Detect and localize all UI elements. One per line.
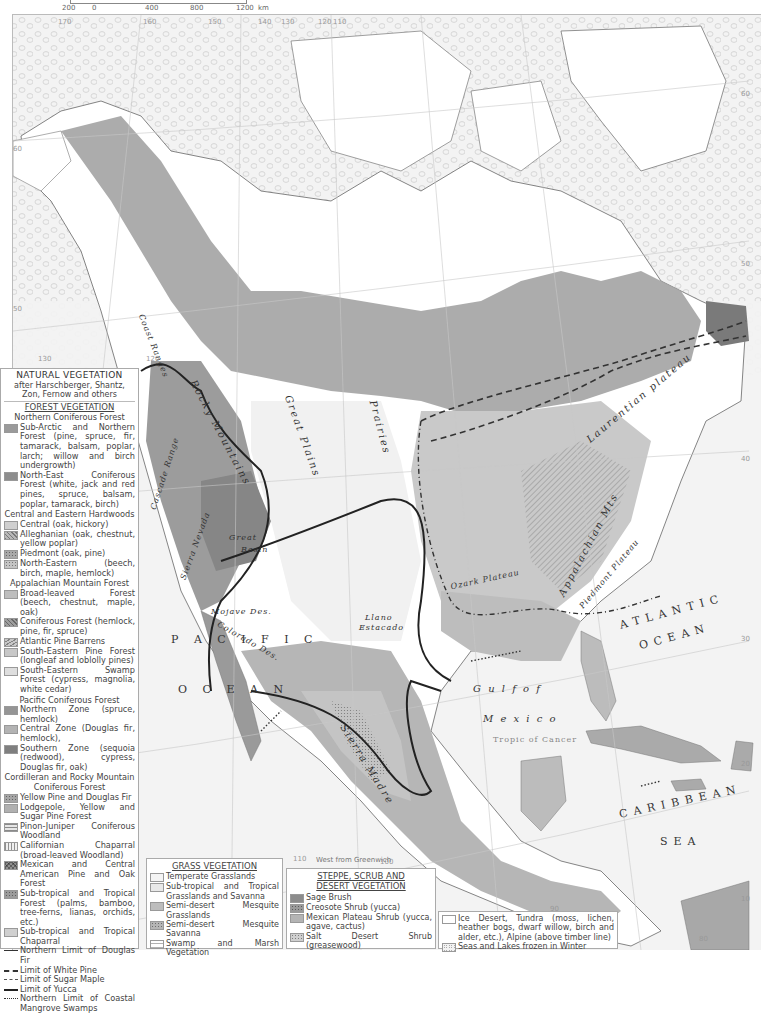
legend-item-label: Swamp and Marsh Vegetation <box>166 939 279 958</box>
legend-item: Ice Desert, Tundra (moss, lichen, heathe… <box>442 914 614 942</box>
legend-swatch <box>4 667 18 676</box>
label-estacado: Estacado <box>359 623 404 632</box>
scale-tick: 200 <box>62 4 75 12</box>
legend-line-symbol <box>4 946 18 955</box>
label-llano: Llano <box>365 613 393 622</box>
legend-swatch <box>4 648 18 657</box>
legend-item-label: Lodgepole, Yellow and Sugar Pine Forest <box>20 803 135 822</box>
legend-line-label: Northern Limit of Coastal Mangrove Swamp… <box>20 994 135 1013</box>
legend-item-label: Coniferous Forest (hemlock, pine, fir, s… <box>20 617 135 636</box>
legend-swatch <box>290 894 304 903</box>
steppe-items: Sage BrushCreosote Shrub (yucca)Mexican … <box>290 893 432 951</box>
legend-swatch <box>150 873 164 882</box>
lon-label: 110 <box>333 18 346 26</box>
legend-natural-vegetation: NATURAL VEGETATION after Harschberger, S… <box>0 368 139 949</box>
legend-swatch <box>4 725 18 734</box>
legend-item-label: Sage Brush <box>306 893 432 902</box>
lon-label: 120 <box>146 355 159 363</box>
label-mojave-desert: Mojave Des. <box>211 607 272 616</box>
steppe-heading-2: DESERT VEGETATION <box>290 881 432 891</box>
legend-item: Salt Desert Shrub (greasewood) <box>290 932 432 951</box>
grass-items: Temperate GrasslandsSub-tropical and Tro… <box>150 872 279 957</box>
legend-grass-vegetation: GRASS VEGETATION Temperate GrasslandsSub… <box>146 858 283 949</box>
lon-label: 80 <box>699 935 708 943</box>
forest-groups: Northern Coniferous ForestSub-Arctic and… <box>4 413 135 946</box>
legend-item-label: Californian Chaparral (broad-leaved Wood… <box>20 841 135 860</box>
legend-item-label: Northern Zone (spruce, hemlock) <box>20 705 135 724</box>
scale-tick: 0 <box>92 4 96 12</box>
legend-item: Seas and Lakes frozen in Winter <box>442 942 614 952</box>
legend-item: Sub-tropical and Tropical Chaparral <box>4 927 135 946</box>
legend-swatch <box>4 590 18 599</box>
legend-swatch <box>4 638 18 647</box>
legend-item: Broad-leaved Forest (beech, chestnut, ma… <box>4 589 135 618</box>
legend-group-title: Cordilleran and Rocky Mountain Coniferou… <box>4 773 135 792</box>
legend-item: South-Eastern Swamp Forest (cypress, mag… <box>4 666 135 695</box>
legend-item: Sage Brush <box>290 893 432 903</box>
scale-tick: 800 <box>190 4 203 12</box>
legend-item-label: Central Zone (Douglas fir, hemlock), <box>20 724 135 743</box>
legend-swatch <box>4 521 18 530</box>
legend-item-label: Alleghanian (oak, chestnut, yellow popla… <box>20 530 135 549</box>
lon-label: 150 <box>208 18 221 26</box>
lat-label: 20 <box>741 760 750 768</box>
west-from-greenwich-label: West from Greenwich <box>316 856 391 864</box>
legend-line-item: Northern Limit of Coastal Mangrove Swamp… <box>4 994 135 1013</box>
ice-items: Ice Desert, Tundra (moss, lichen, heathe… <box>442 914 614 952</box>
legend-item-label: Sub-tropical and Tropical Forest (palms,… <box>20 889 135 927</box>
gulf-label-1: G u l f o f <box>473 683 542 694</box>
legend-steppe-vegetation: STEPPE, SCRUB AND DESERT VEGETATION Sage… <box>286 868 436 949</box>
ocean-label-sea: SEA <box>660 835 702 848</box>
legend-item: Creosote Shrub (yucca) <box>290 903 432 913</box>
scale-tick: 400 <box>145 4 158 12</box>
forest-limit-lines: Northern Limit of Douglas FirLimit of Wh… <box>4 946 135 1013</box>
legend-item: North-Eastern (beech, birch, maple, heml… <box>4 559 135 578</box>
legend-item: Californian Chaparral (broad-leaved Wood… <box>4 841 135 860</box>
lon-label: 140 <box>258 18 271 26</box>
legend-item: Semi-desert Mesquite Savanna <box>150 920 279 939</box>
legend-item: South-Eastern Pine Forest (longleaf and … <box>4 647 135 666</box>
legend-swatch <box>4 794 18 803</box>
legend-item-label: Sub-tropical and Tropical Chaparral <box>20 927 135 946</box>
legend-line-label: Northern Limit of Douglas Fir <box>20 946 135 965</box>
legend-item-label: Mexican and Central American Pine and Oa… <box>20 860 135 889</box>
legend-item-label: Central (oak, hickory) <box>20 520 135 530</box>
forest-heading: FOREST VEGETATION <box>4 401 135 413</box>
legend-item-label: Broad-leaved Forest (beech, chestnut, ma… <box>20 589 135 618</box>
legend-item-label: Semi-desert Mesquite Grasslands <box>166 901 279 920</box>
steppe-heading-1: STEPPE, SCRUB AND <box>290 871 432 881</box>
legend-item: Central Zone (Douglas fir, hemlock), <box>4 724 135 743</box>
legend-subtitle: after Harschberger, Shantz, Zon, Fernow … <box>4 381 135 399</box>
legend-swatch <box>150 883 164 892</box>
scale-bar: 200 0 400 800 1200 km <box>60 0 260 14</box>
legend-swatch <box>4 928 18 937</box>
lat-label: 10 <box>741 895 750 903</box>
lon-label: 130 <box>281 18 294 26</box>
lat-label: 60 <box>13 145 22 153</box>
lon-label: 170 <box>58 18 71 26</box>
legend-item-label: South-Eastern Swamp Forest (cypress, mag… <box>20 666 135 695</box>
legend-line-item: Northern Limit of Douglas Fir <box>4 946 135 965</box>
lon-label: 130 <box>38 355 51 363</box>
legend-swatch <box>4 706 18 715</box>
legend-item: Southern Zone (sequoia (redwood), cypres… <box>4 744 135 773</box>
legend-swatch <box>442 943 456 952</box>
legend-swatch <box>4 560 18 569</box>
legend-swatch <box>4 472 18 481</box>
legend-item-label: Sub-Arctic and Northern Forest (pine, sp… <box>20 423 135 471</box>
legend-swatch <box>4 842 18 851</box>
legend-item-label: Seas and Lakes frozen in Winter <box>458 942 614 951</box>
legend-swatch <box>4 890 18 899</box>
legend-swatch <box>4 550 18 559</box>
legend-swatch <box>150 921 164 930</box>
lat-label: 50 <box>741 260 750 268</box>
legend-swatch <box>290 904 304 913</box>
legend-item: Mexican and Central American Pine and Oa… <box>4 860 135 889</box>
legend-title: NATURAL VEGETATION <box>4 371 135 381</box>
lon-label: 160 <box>143 18 156 26</box>
label-great-basin-1: Great <box>229 533 257 542</box>
legend-item: Coniferous Forest (hemlock, pine, fir, s… <box>4 617 135 636</box>
legend-swatch <box>4 531 18 540</box>
legend-item-label: Temperate Grasslands <box>166 872 279 881</box>
legend-line-symbol <box>4 975 18 984</box>
